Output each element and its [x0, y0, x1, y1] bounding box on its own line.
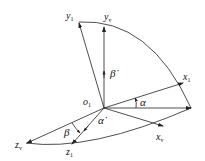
alpha-angle-arc [135, 98, 136, 108]
label-y1: y1 [66, 11, 73, 22]
rotation-diagram: y1 yv x1 xv zv z1 o1 α β β̇ α̇ [0, 0, 205, 161]
label-x1: x1 [183, 72, 190, 83]
label-z1: z1 [66, 147, 73, 158]
label-alpha-dot: α̇ [98, 115, 104, 126]
alpha-dot-arrow [84, 126, 88, 131]
upper-arc [79, 22, 191, 108]
diagram-canvas [0, 0, 205, 161]
label-xv: xv [156, 132, 163, 143]
label-yv: yv [104, 12, 111, 23]
label-beta: β [64, 127, 69, 138]
label-alpha: α [140, 97, 146, 108]
label-beta-dot: β̇ [110, 68, 115, 79]
label-origin: o1 [83, 97, 91, 108]
axis-xv [104, 108, 163, 126]
lower-arc [26, 108, 191, 145]
label-zv: zv [15, 140, 22, 151]
beta-angle-arc [72, 123, 80, 133]
